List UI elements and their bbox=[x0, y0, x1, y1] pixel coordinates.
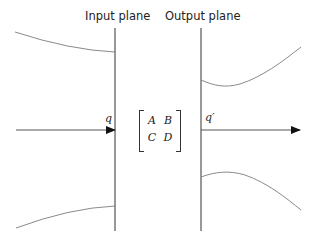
input-beam-upper-curve bbox=[15, 32, 115, 52]
input-plane-label: Input plane bbox=[85, 9, 150, 23]
matrix-cell-a: A bbox=[145, 114, 159, 127]
input-beam-lower-curve bbox=[16, 206, 115, 228]
output-plane-label: Output plane bbox=[165, 9, 241, 23]
output-beam-lower-curve bbox=[201, 172, 301, 210]
matrix-right-bracket bbox=[176, 110, 181, 152]
matrix-cell-b: B bbox=[161, 114, 175, 127]
abcd-ray-transfer-diagram: Input plane Output plane q q′ A B C D bbox=[0, 0, 315, 242]
q-input-label: q bbox=[105, 112, 112, 125]
q-output-label: q′ bbox=[205, 111, 215, 124]
matrix-cell-d: D bbox=[161, 131, 175, 144]
matrix-cell-c: C bbox=[145, 131, 159, 144]
output-beam-upper-curve bbox=[201, 47, 301, 86]
abcd-matrix: A B C D bbox=[139, 110, 181, 150]
matrix-left-bracket bbox=[139, 110, 144, 152]
